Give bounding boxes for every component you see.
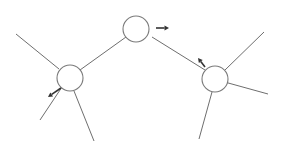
edge-top-right (152, 37, 205, 70)
edge-left-upper (16, 34, 59, 69)
edge-left-lower-left (40, 84, 64, 120)
right-arrow-icon (198, 58, 205, 67)
edge-right-side (221, 81, 268, 94)
nodes-group (57, 16, 228, 92)
node-top (123, 16, 149, 42)
node-left (57, 65, 83, 91)
left-arrow-icon (48, 88, 61, 97)
edges-group (16, 32, 268, 141)
edge-right-lower (199, 92, 212, 139)
edge-right-upper (225, 32, 264, 70)
edge-left-top (80, 37, 126, 70)
tree-diagram (0, 0, 283, 147)
top-arrow-icon (156, 26, 169, 31)
edge-left-lower-right (74, 91, 94, 141)
node-right (202, 66, 228, 92)
